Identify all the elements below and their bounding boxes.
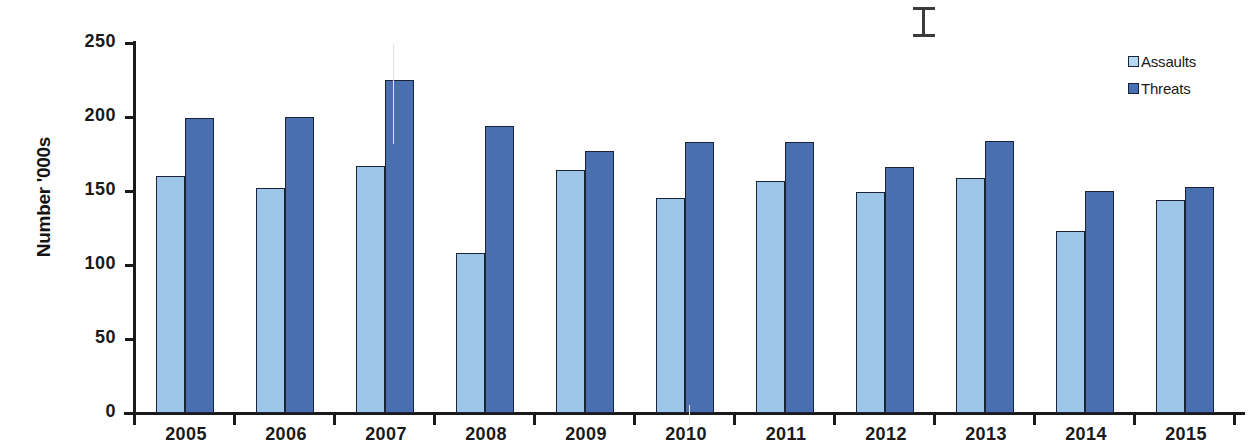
plot-area: [136, 43, 1244, 413]
bar-assaults-2013: [956, 178, 985, 413]
y-axis-tick: [125, 264, 134, 267]
x-axis-tick-label: 2015: [1136, 424, 1236, 445]
y-axis-tick: [125, 116, 134, 119]
x-axis-tick: [1233, 415, 1236, 425]
legend-swatch-assaults-icon: [1128, 56, 1139, 67]
bar-threats-2009: [585, 151, 614, 413]
y-axis-title: Number '000s: [33, 117, 55, 277]
bar-assaults-2005: [156, 176, 185, 413]
legend-item-threats: Threats: [1128, 75, 1246, 102]
bar-threats-2010: [685, 142, 714, 413]
y-axis-tick-label: 200: [66, 105, 116, 126]
y-axis-tick: [125, 338, 134, 341]
x-axis-tick-label: 2014: [1036, 424, 1136, 445]
bar-assaults-2011: [756, 181, 785, 413]
bar-threats-2012: [885, 167, 914, 413]
bar-assaults-2014: [1056, 231, 1085, 413]
y-axis-tick-label: 150: [66, 179, 116, 200]
x-axis-tick-label: 2008: [436, 424, 536, 445]
y-axis-tick-label: 50: [66, 327, 116, 348]
x-axis-tick-label: 2009: [536, 424, 636, 445]
y-axis-tick: [125, 190, 134, 193]
legend-label: Assaults: [1141, 53, 1196, 70]
bar-assaults-2008: [456, 253, 485, 413]
x-axis-tick-label: 2012: [836, 424, 936, 445]
bar-assaults-2015: [1156, 200, 1185, 413]
i-beam-cursor-icon: [913, 6, 935, 38]
bar-assaults-2010: [656, 198, 685, 413]
chart-legend: AssaultsThreats: [1128, 48, 1246, 102]
legend-label: Threats: [1141, 80, 1190, 97]
bar-threats-2011: [785, 142, 814, 413]
bar-threats-2013: [985, 141, 1014, 413]
bar-chart: Number '000s 050100150200250 20052006200…: [0, 0, 1249, 448]
x-axis-tick-label: 2010: [636, 424, 736, 445]
x-axis-tick-label: 2011: [736, 424, 836, 445]
scan-artifact-line: [393, 44, 394, 144]
bar-threats-2014: [1085, 191, 1114, 413]
bar-threats-2006: [285, 117, 314, 413]
i-beam-cursor-stem: [922, 8, 925, 36]
y-axis-tick-label: 100: [66, 253, 116, 274]
legend-swatch-threats-icon: [1128, 83, 1139, 94]
scan-artifact-line-2: [689, 405, 690, 425]
bar-assaults-2009: [556, 170, 585, 413]
bar-assaults-2012: [856, 192, 885, 413]
bar-threats-2008: [485, 126, 514, 413]
bar-threats-2005: [185, 118, 214, 413]
y-axis-tick-label: 250: [66, 31, 116, 52]
y-axis-tick-label: 0: [66, 401, 116, 422]
legend-item-assaults: Assaults: [1128, 48, 1246, 75]
bar-assaults-2006: [256, 188, 285, 413]
bar-assaults-2007: [356, 166, 385, 413]
x-axis-tick-label: 2006: [236, 424, 336, 445]
x-axis-tick-label: 2007: [336, 424, 436, 445]
x-axis-tick-label: 2013: [936, 424, 1036, 445]
y-axis-tick: [125, 42, 134, 45]
bar-threats-2015: [1185, 187, 1214, 413]
bar-threats-2007: [385, 80, 414, 413]
x-axis-tick-label: 2005: [136, 424, 236, 445]
i-beam-cursor-bottom: [913, 34, 935, 37]
